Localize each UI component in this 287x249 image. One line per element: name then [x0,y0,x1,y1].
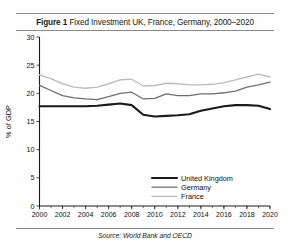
x-tick-label: 2020 [262,211,278,218]
figure-label: Figure 1 [36,18,67,27]
x-tick-label: 2002 [55,211,71,218]
x-tick-label: 2012 [170,211,186,218]
line-chart: 051015202530% of GDP20002002200420062008… [0,30,287,228]
x-tick-label: 2010 [147,211,163,218]
y-tick-label: 5 [31,173,35,182]
figure-title: Figure 1 Fixed Investment UK, France, Ge… [16,16,274,29]
series-line-germany [40,82,271,99]
x-tick-label: 2000 [32,211,48,218]
x-tick-label: 2014 [193,211,209,218]
y-axis-title: % of GDP [4,105,13,138]
x-tick-label: 2006 [101,211,117,218]
x-tick-label: 2008 [124,211,140,218]
figure-bottom-rule [16,228,274,229]
y-tick-label: 30 [27,33,35,42]
figure-title-text: Fixed Investment UK, France, Germany, 20… [69,18,253,27]
x-tick-label: 2016 [216,211,232,218]
legend-label-france: France [181,192,204,201]
x-tick-label: 2004 [78,211,94,218]
figure-source-note: Source: World Bank and OECD [16,231,274,241]
chart-plot-area: 051015202530% of GDP20002002200420062008… [0,30,287,228]
y-tick-label: 0 [31,202,35,211]
y-tick-label: 15 [27,117,35,126]
y-tick-label: 20 [27,89,35,98]
figure-panel: Figure 1 Fixed Investment UK, France, Ge… [0,0,287,249]
figure-top-rule [16,13,274,14]
legend-label-united-kingdom: United Kingdom [181,174,233,183]
x-tick-label: 2018 [239,211,255,218]
legend-label-germany: Germany [181,183,211,192]
series-line-united-kingdom [40,103,271,116]
series-line-france [40,74,271,88]
y-tick-label: 10 [27,145,35,154]
y-tick-label: 25 [27,61,35,70]
